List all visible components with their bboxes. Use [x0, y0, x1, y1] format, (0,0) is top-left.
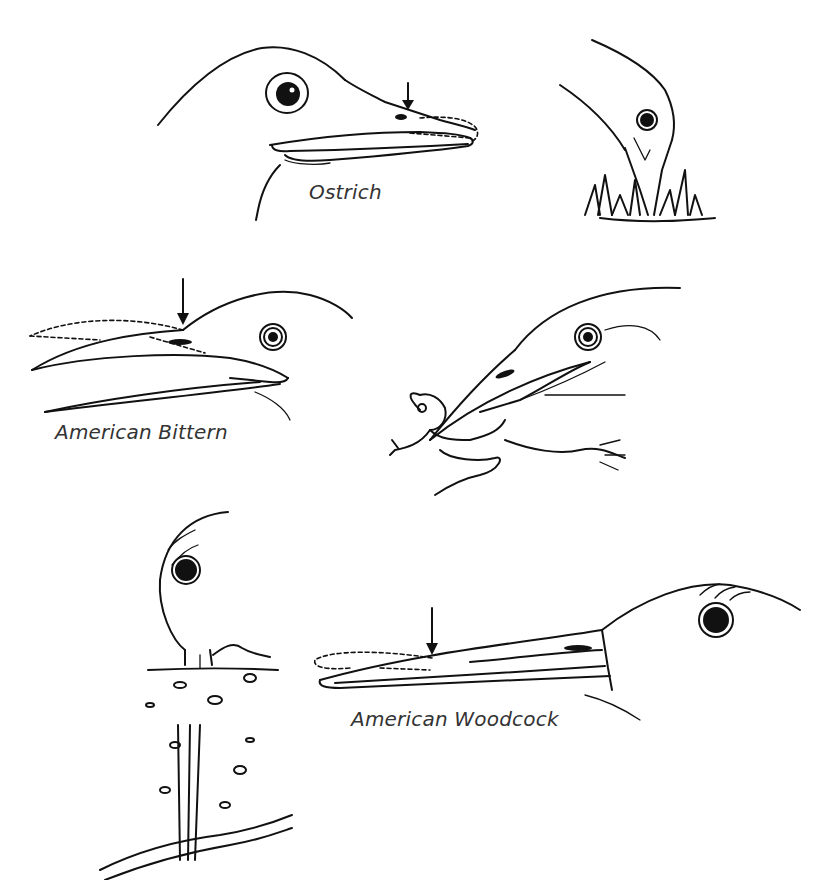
frog [390, 393, 625, 495]
ostrich-feeding-drawing [560, 40, 715, 221]
bittern-head-drawing [30, 279, 352, 420]
label-american-woodcock: American Woodcock [351, 707, 559, 731]
woodcock-head-drawing [315, 584, 800, 720]
soil-pebbles [146, 674, 256, 808]
label-american-bittern: American Bittern [55, 420, 228, 444]
woodcock-probing-drawing [100, 512, 292, 880]
bittern-feeding-drawing [390, 288, 680, 495]
label-ostrich: Ostrich [309, 180, 382, 204]
grass [585, 170, 715, 221]
